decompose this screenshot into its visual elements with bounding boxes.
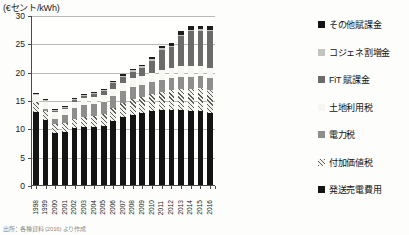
bar-segment-vat xyxy=(130,99,136,114)
bar-segment-vat xyxy=(52,124,58,133)
bar-2002[interactable] xyxy=(72,98,78,186)
legend-label: 土地利用税 xyxy=(329,101,373,114)
x-tick-label: 1998 xyxy=(33,200,40,215)
bar-segment-generation xyxy=(169,110,175,187)
bar-2014[interactable] xyxy=(188,26,194,186)
bar-2012[interactable] xyxy=(169,43,175,186)
legend-label: コジェネ割増金 xyxy=(329,46,390,59)
x-tick-label: 2012 xyxy=(168,200,175,215)
bar-segment-vat xyxy=(169,90,175,110)
bar-segment-generation xyxy=(62,132,68,186)
bar-2001[interactable] xyxy=(62,106,68,186)
plot-area xyxy=(31,16,215,186)
x-tick-label: 2006 xyxy=(110,200,117,215)
bar-segment-land_tax xyxy=(33,95,39,102)
bar-segment-generation xyxy=(120,117,126,186)
x-tick-label: 2002 xyxy=(71,200,78,215)
bar-segment-vat xyxy=(198,88,204,111)
bar-segment-generation xyxy=(198,111,204,186)
bar-1998[interactable] xyxy=(33,93,39,186)
bar-segment-vat xyxy=(33,102,39,112)
legend-item-generation[interactable]: 発送売電費用 xyxy=(318,183,381,196)
bar-segment-vat xyxy=(110,108,116,121)
legend-item-land_tax[interactable]: 土地利用税 xyxy=(318,101,373,114)
bar-segment-generation xyxy=(91,127,97,187)
bar-segment-generation xyxy=(72,128,78,186)
bar-2009[interactable] xyxy=(139,65,145,186)
bar-segment-power_tax xyxy=(91,104,97,116)
bar-2008[interactable] xyxy=(130,69,136,186)
bar-2016[interactable] xyxy=(207,26,213,186)
bar-segment-land_tax xyxy=(81,98,87,105)
x-tick-label: 2001 xyxy=(62,200,69,215)
bar-segment-generation xyxy=(207,113,213,186)
y-tick-label: 15 xyxy=(16,96,25,106)
legend-swatch-icon xyxy=(318,104,325,111)
bar-2006[interactable] xyxy=(110,81,116,186)
x-axis-tick-labels: 1998199920002001200220032004200520062007… xyxy=(31,189,215,215)
bar-segment-power_tax xyxy=(130,87,136,99)
bar-segment-power_tax xyxy=(207,78,213,90)
bar-segment-fit_levy xyxy=(188,31,194,66)
bar-segment-land_tax xyxy=(198,66,204,76)
x-tick-label: 2008 xyxy=(129,200,136,215)
bar-segment-land_tax xyxy=(43,102,49,109)
bar-2007[interactable] xyxy=(120,74,126,186)
bar-segment-vat xyxy=(207,90,213,113)
x-tick-label: 2004 xyxy=(91,200,98,215)
legend-item-fit_levy[interactable]: FiT 賦課金 xyxy=(318,73,369,86)
bar-segment-vat xyxy=(120,103,126,117)
legend-item-cogen[interactable]: コジェネ割増金 xyxy=(318,46,390,59)
bar-segment-vat xyxy=(178,89,184,111)
x-tick-label: 2016 xyxy=(207,200,214,215)
bar-segment-generation xyxy=(101,126,107,186)
bar-segment-power_tax xyxy=(198,76,204,88)
bar-segment-vat xyxy=(91,116,97,127)
legend-swatch-icon xyxy=(318,76,325,83)
bar-segment-power_tax xyxy=(101,102,107,114)
y-tick-label: 20 xyxy=(16,68,25,78)
legend-swatch-icon xyxy=(318,186,325,193)
bar-segment-vat xyxy=(101,114,107,126)
bar-segment-land_tax xyxy=(169,68,175,78)
legend-swatch-icon xyxy=(318,21,325,28)
bar-2013[interactable] xyxy=(178,31,184,186)
bar-segment-fit_levy xyxy=(139,68,145,75)
legend-item-other_levy[interactable]: その他賦課金 xyxy=(318,18,381,31)
bar-segment-land_tax xyxy=(178,66,184,76)
bar-1999[interactable] xyxy=(43,99,49,186)
bar-segment-land_tax xyxy=(207,68,213,78)
bar-series-group xyxy=(31,16,215,186)
bar-2010[interactable] xyxy=(149,57,155,186)
bar-2004[interactable] xyxy=(91,92,97,186)
bar-segment-generation xyxy=(81,127,87,186)
bar-segment-fit_levy xyxy=(169,47,175,67)
x-tick-label: 2003 xyxy=(81,200,88,215)
bar-2015[interactable] xyxy=(198,26,204,186)
bar-2003[interactable] xyxy=(81,94,87,186)
bar-segment-land_tax xyxy=(110,89,116,97)
bar-segment-fit_levy xyxy=(178,36,184,66)
legend-label: その他賦課金 xyxy=(329,18,381,31)
bar-2000[interactable] xyxy=(52,109,58,186)
bar-segment-power_tax xyxy=(62,115,68,122)
legend-item-vat[interactable]: 付加価値税 xyxy=(318,156,373,169)
x-tick-mark xyxy=(215,186,216,189)
bar-segment-land_tax xyxy=(130,78,136,87)
legend-item-power_tax[interactable]: 電力税 xyxy=(318,128,355,141)
x-tick-label: 2011 xyxy=(158,201,165,215)
bar-segment-power_tax xyxy=(81,105,87,117)
legend-swatch-icon xyxy=(318,49,325,56)
bar-segment-land_tax xyxy=(149,73,155,83)
y-axis-line xyxy=(31,16,32,186)
bar-2011[interactable] xyxy=(159,46,165,186)
bar-segment-power_tax xyxy=(188,77,194,89)
bar-segment-generation xyxy=(33,112,39,186)
bar-segment-generation xyxy=(149,111,155,186)
bar-segment-land_tax xyxy=(101,95,107,102)
bar-segment-vat xyxy=(188,89,194,112)
bar-segment-vat xyxy=(62,123,68,132)
legend-swatch-icon xyxy=(318,131,325,138)
bar-2005[interactable] xyxy=(101,89,107,186)
bar-segment-power_tax xyxy=(72,108,78,118)
